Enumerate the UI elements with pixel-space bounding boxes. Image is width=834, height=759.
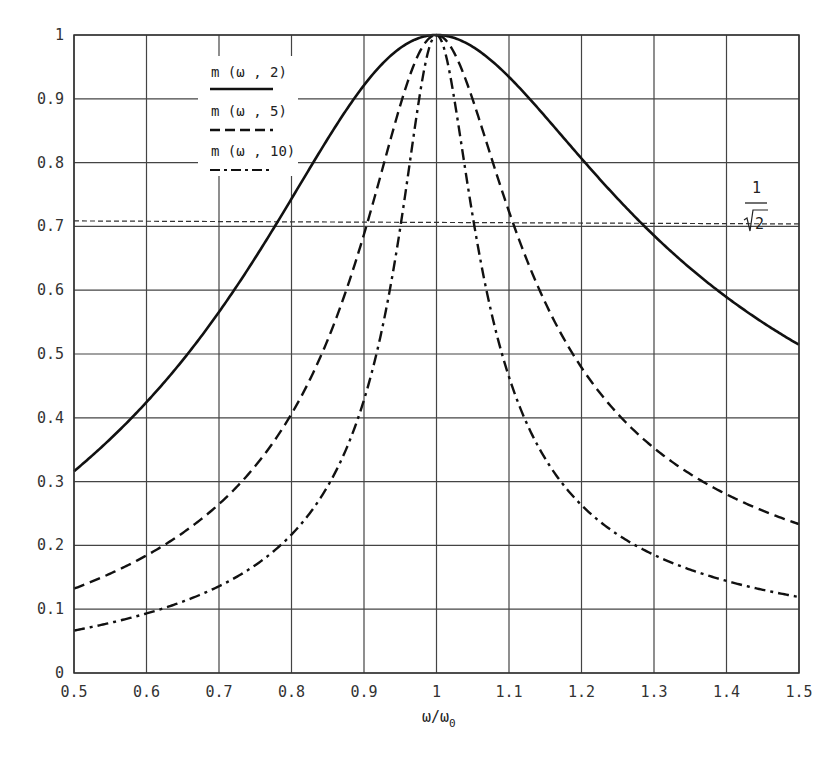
y-axis-ticks: 00.10.20.30.40.50.60.70.80.91	[37, 26, 64, 682]
y-tick-label: 0.7	[37, 217, 64, 235]
annotation-one-over-sqrt2: 1 2	[744, 174, 774, 234]
x-tick-label: 0.9	[350, 683, 377, 701]
x-tick-label: 1.4	[713, 683, 740, 701]
x-tick-label: 1.3	[640, 683, 667, 701]
annotation-numerator: 1	[752, 179, 761, 197]
x-tick-label: 0.7	[205, 683, 232, 701]
y-tick-label: 0.8	[37, 154, 64, 172]
x-axis-label-main: ω/ω	[422, 708, 449, 726]
legend-label-q2: m (ω , 2)	[211, 64, 287, 80]
resonance-chart: 00.10.20.30.40.50.60.70.80.91 0.50.60.70…	[0, 0, 834, 759]
x-tick-label: 1	[432, 683, 441, 701]
y-tick-label: 0.4	[37, 409, 64, 427]
x-tick-label: 1.1	[495, 683, 522, 701]
y-tick-label: 0.5	[37, 345, 64, 363]
y-tick-label: 0.3	[37, 473, 64, 491]
grid-lines	[74, 35, 799, 673]
y-tick-label: 0.6	[37, 281, 64, 299]
y-tick-label: 0.9	[37, 90, 64, 108]
x-axis-ticks: 0.50.60.70.80.911.11.21.31.41.5	[60, 683, 812, 701]
x-tick-label: 1.5	[785, 683, 812, 701]
x-axis-label: ω/ω0	[422, 708, 456, 730]
x-axis-label-subscript: 0	[449, 717, 456, 730]
x-tick-label: 1.2	[568, 683, 595, 701]
x-tick-label: 0.6	[133, 683, 160, 701]
y-tick-label: 0.2	[37, 536, 64, 554]
y-tick-label: 0.1	[37, 600, 64, 618]
legend: m (ω , 2) m (ω , 5) m (ω , 10)	[198, 56, 298, 176]
y-tick-label: 1	[55, 26, 64, 44]
x-tick-label: 0.8	[278, 683, 305, 701]
legend-label-q10: m (ω , 10)	[211, 143, 295, 159]
legend-label-q5: m (ω , 5)	[211, 103, 287, 119]
y-tick-label: 0	[55, 664, 64, 682]
x-tick-label: 0.5	[60, 683, 87, 701]
annotation-radicand: 2	[755, 215, 764, 233]
